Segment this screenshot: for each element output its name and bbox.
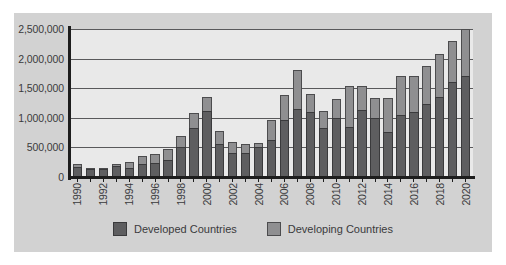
bar-column xyxy=(356,29,369,177)
bar-stack xyxy=(370,98,379,177)
bar-stack xyxy=(306,94,315,177)
bar-segment-developing xyxy=(396,76,405,115)
x-axis-tick xyxy=(407,177,420,182)
x-axis-tick-label: 2008 xyxy=(304,183,316,206)
bar-segment-developing xyxy=(293,70,302,109)
bar-stack xyxy=(202,97,211,178)
bar-segment-developed xyxy=(396,115,405,177)
bar-column xyxy=(343,29,356,177)
x-axis-tick-label: 1994 xyxy=(123,183,135,206)
bar-stack xyxy=(280,95,289,177)
x-axis-tick-label: 1996 xyxy=(149,183,161,206)
bar-series-container xyxy=(70,29,473,177)
bar-segment-developed xyxy=(228,153,237,177)
bar-segment-developing xyxy=(189,113,198,128)
x-axis-tick xyxy=(213,177,226,182)
x-axis-tick xyxy=(394,177,407,182)
x-axis-tick-label: 2004 xyxy=(253,183,265,206)
bar-segment-developing xyxy=(345,86,354,127)
bar-segment-developing xyxy=(306,94,315,112)
x-axis-tick xyxy=(252,177,265,182)
x-axis-tick xyxy=(369,177,382,182)
bar-stack xyxy=(461,29,470,177)
bar-stack xyxy=(254,143,263,177)
x-axis-label-cell xyxy=(446,183,459,223)
x-axis-tick xyxy=(136,177,149,182)
x-axis-label-cell xyxy=(420,183,433,223)
x-axis-tick xyxy=(149,177,162,182)
bar-stack xyxy=(345,86,354,177)
bar-segment-developed xyxy=(461,76,470,177)
chart-legend: Developed CountriesDeveloping Countries xyxy=(14,222,492,236)
x-axis-tick xyxy=(123,177,136,182)
x-axis-label-cell: 2014 xyxy=(382,183,395,223)
bar-column xyxy=(265,29,278,177)
y-axis-tick-label: 500,000 xyxy=(8,141,64,153)
bar-segment-developed xyxy=(357,110,366,177)
bar-stack xyxy=(215,131,224,177)
bar-column xyxy=(84,29,97,177)
bar-segment-developing xyxy=(280,95,289,120)
x-axis-label-cell: 2002 xyxy=(226,183,239,223)
x-axis-tick-label: 2018 xyxy=(434,183,446,206)
x-axis-tick xyxy=(446,177,459,182)
bar-segment-developed xyxy=(435,97,444,177)
bar-segment-developing xyxy=(138,156,147,164)
bar-column xyxy=(136,29,149,177)
bar-segment-developed xyxy=(280,120,289,177)
y-axis-line xyxy=(68,26,71,180)
x-axis-label-cell: 2018 xyxy=(433,183,446,223)
bar-segment-developed xyxy=(370,118,379,177)
bar-column xyxy=(420,29,433,177)
x-axis-label-cell xyxy=(291,183,304,223)
bar-segment-developing xyxy=(461,29,470,76)
plot-area xyxy=(70,29,473,177)
bar-column xyxy=(459,29,472,177)
x-axis-label-cell: 2016 xyxy=(407,183,420,223)
bar-segment-developing xyxy=(319,111,328,128)
x-axis-tick xyxy=(175,177,188,182)
bar-column xyxy=(291,29,304,177)
bar-column xyxy=(317,29,330,177)
bar-segment-developing xyxy=(176,136,185,147)
x-axis-label-cell: 2004 xyxy=(252,183,265,223)
bar-column xyxy=(71,29,84,177)
x-axis-tick-label: 2020 xyxy=(460,183,472,206)
bar-column xyxy=(175,29,188,177)
bar-segment-developing xyxy=(163,149,172,161)
bar-stack xyxy=(448,41,457,177)
x-axis-labels: 1990199219941996199820002002200420062008… xyxy=(70,183,473,223)
x-axis-tick xyxy=(110,177,123,182)
bar-column xyxy=(252,29,265,177)
x-axis-tick xyxy=(317,177,330,182)
bar-column xyxy=(226,29,239,177)
bar-column xyxy=(433,29,446,177)
bar-column xyxy=(330,29,343,177)
bar-column xyxy=(304,29,317,177)
x-axis-tick-label: 2012 xyxy=(356,183,368,206)
x-axis-label-cell: 2010 xyxy=(330,183,343,223)
legend-item[interactable]: Developing Countries xyxy=(267,222,393,236)
x-axis-label-cell xyxy=(265,183,278,223)
bar-segment-developing xyxy=(422,66,431,103)
bar-column xyxy=(187,29,200,177)
x-axis-label-cell: 2008 xyxy=(304,183,317,223)
bar-segment-developed xyxy=(345,127,354,177)
legend-item[interactable]: Developed Countries xyxy=(113,222,237,236)
x-axis-tick xyxy=(382,177,395,182)
x-axis-label-cell: 1994 xyxy=(123,183,136,223)
bar-stack xyxy=(383,98,392,177)
x-axis-tick-label: 2010 xyxy=(330,183,342,206)
bar-stack xyxy=(332,99,341,177)
bar-segment-developed xyxy=(202,111,211,177)
bar-segment-developing xyxy=(357,86,366,110)
bar-segment-developing xyxy=(370,98,379,118)
bar-column xyxy=(382,29,395,177)
bar-segment-developed xyxy=(215,144,224,177)
bar-column xyxy=(394,29,407,177)
bar-segment-developing xyxy=(267,120,276,140)
x-axis-tick xyxy=(330,177,343,182)
bar-stack xyxy=(319,111,328,177)
x-axis-tick xyxy=(291,177,304,182)
x-axis-label-cell: 1998 xyxy=(175,183,188,223)
